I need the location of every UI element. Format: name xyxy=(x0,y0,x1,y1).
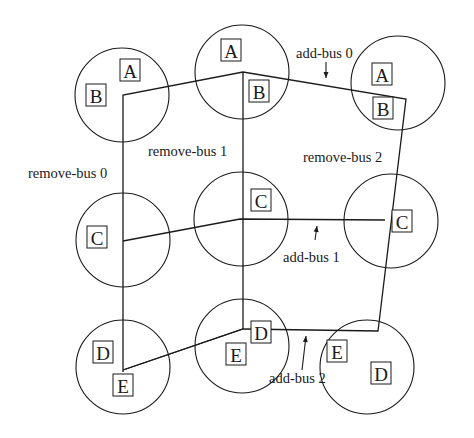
label-box-text: D xyxy=(96,343,110,364)
label-box-text: D xyxy=(254,323,268,344)
add-bus-2-arrow xyxy=(302,336,308,370)
annotation-labels: add-bus 0remove-bus 1remove-bus 2remove-… xyxy=(28,45,382,386)
node-circle-n3 xyxy=(351,36,445,130)
label-remove-bus-2: remove-bus 2 xyxy=(303,149,382,165)
label-box-b: B xyxy=(86,84,106,107)
label-box-e: E xyxy=(226,343,246,366)
label-add-bus-0: add-bus 0 xyxy=(296,45,353,61)
label-box-c: C xyxy=(87,226,107,249)
add-bus-0-arrow xyxy=(324,62,329,78)
node-circle-n9 xyxy=(320,320,414,414)
label-box-d: D xyxy=(93,341,113,364)
label-add-bus-2: add-bus 2 xyxy=(269,370,326,386)
label-box-text: C xyxy=(255,191,268,212)
label-box-text: E xyxy=(230,345,242,366)
annotation-arrows xyxy=(302,62,329,370)
label-box-text: C xyxy=(396,212,409,233)
label-box-text: A xyxy=(375,65,389,86)
add-bus-1-line xyxy=(123,219,385,241)
label-remove-bus-1: remove-bus 1 xyxy=(148,143,227,159)
add-bus-1-arrow xyxy=(314,226,319,240)
label-box-a: A xyxy=(120,59,140,82)
label-box-text: E xyxy=(331,342,343,363)
label-box-text: B xyxy=(377,99,390,120)
label-box-e: E xyxy=(113,374,133,397)
label-box-a: A xyxy=(372,63,392,86)
add-bus-2-line xyxy=(123,329,243,370)
label-box-text: C xyxy=(91,228,104,249)
label-add-bus-1: add-bus 1 xyxy=(283,249,340,265)
label-box-text: B xyxy=(253,82,266,103)
label-box-b: B xyxy=(249,80,269,103)
label-box-d: D xyxy=(251,321,271,344)
label-box-a: A xyxy=(221,39,241,62)
bus-diagram: ABABABCCCDEDEED add-bus 0remove-bus 1rem… xyxy=(0,0,474,438)
label-remove-bus-0: remove-bus 0 xyxy=(28,165,107,181)
label-box-c: C xyxy=(392,210,412,233)
label-box-text: B xyxy=(90,86,103,107)
label-box-b: B xyxy=(373,97,393,120)
label-box-text: E xyxy=(117,376,129,397)
label-box-text: D xyxy=(374,364,388,385)
label-box-text: A xyxy=(123,61,137,82)
label-box-text: A xyxy=(224,41,238,62)
diagram-canvas: ABABABCCCDEDEED add-bus 0remove-bus 1rem… xyxy=(0,0,474,438)
label-box-d: D xyxy=(371,362,391,385)
label-box-e: E xyxy=(327,340,347,363)
label-box-c: C xyxy=(251,189,271,212)
